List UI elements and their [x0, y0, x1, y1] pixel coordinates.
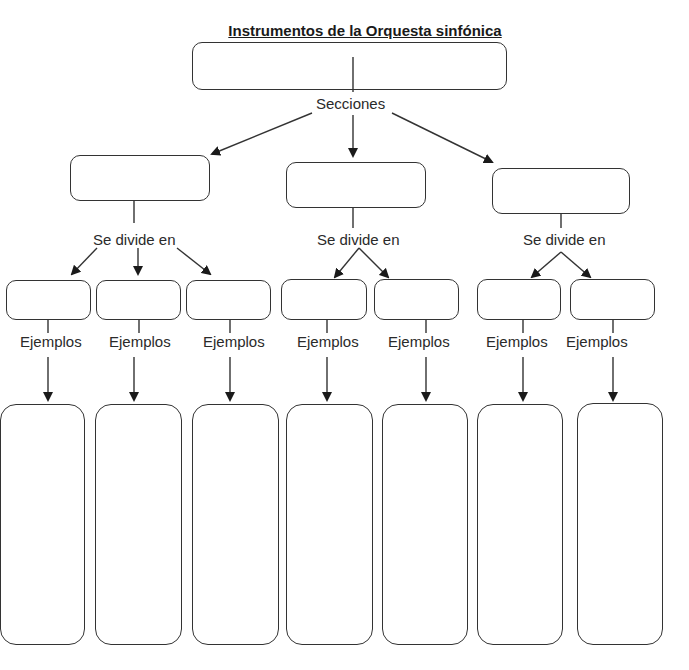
connector-lines: [0, 0, 689, 670]
